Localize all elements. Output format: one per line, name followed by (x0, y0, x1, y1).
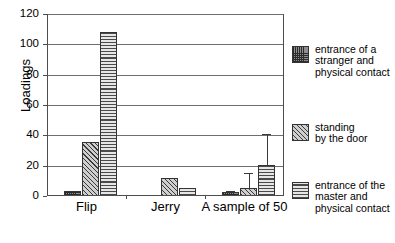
error-bar-cap (262, 134, 271, 135)
gridline (48, 105, 283, 106)
error-bar (267, 134, 268, 165)
legend-swatch (292, 46, 309, 63)
y-tick-label: 80 (13, 69, 39, 80)
x-tick-mark (205, 195, 206, 199)
y-tick-label: 100 (13, 38, 39, 49)
bar (100, 32, 117, 196)
plot-area (47, 14, 284, 196)
legend-swatch (292, 182, 309, 199)
y-tick-label: 120 (13, 8, 39, 19)
bar (258, 165, 275, 196)
bar (82, 142, 99, 196)
y-tick-mark (43, 196, 47, 197)
error-bar (249, 173, 250, 187)
gridline (48, 44, 283, 45)
error-bar-cap (244, 173, 253, 174)
legend-label: entrance of astranger andphysical contac… (315, 44, 395, 78)
gridline (48, 135, 283, 136)
chart-root: Loadings 020406080100120 FlipJerryA samp… (0, 0, 395, 243)
bar (161, 178, 178, 196)
legend-label: standingby the door (315, 122, 395, 145)
y-tick-label: 40 (13, 129, 39, 140)
x-tick-mark (126, 195, 127, 199)
x-axis-line (47, 195, 284, 196)
x-tick-label: A sample of 50 (185, 199, 305, 214)
legend-label: entrance of themaster andphysical contac… (315, 180, 395, 214)
y-tick-label: 60 (13, 99, 39, 110)
gridline (48, 14, 283, 15)
gridline (48, 75, 283, 76)
error-bar-cap (226, 191, 235, 192)
y-axis-ticks: 020406080100120 (0, 0, 47, 196)
legend-swatch (292, 124, 309, 141)
y-tick-label: 20 (13, 160, 39, 171)
chart-legend: entrance of astranger andphysical contac… (289, 0, 395, 243)
